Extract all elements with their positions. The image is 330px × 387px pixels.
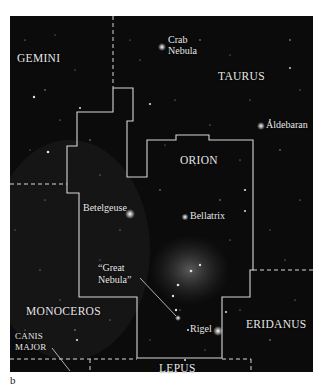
- label-crab-nebula-1: Crab: [168, 35, 187, 46]
- label-taurus: TAURUS: [218, 70, 265, 82]
- label-eridanus: ERIDANUS: [246, 318, 307, 330]
- label-canis-major-2: MAJOR: [15, 343, 47, 352]
- label-crab-nebula-2: Nebula: [168, 46, 197, 57]
- label-canis-major-1: CANIS: [15, 332, 43, 341]
- label-aldebaran: Aldebaran: [266, 120, 308, 131]
- label-great-nebula-2: Nebula”: [98, 275, 131, 286]
- label-betelgeuse: Betelgeuse: [83, 203, 127, 214]
- label-rigel: Rigel: [190, 324, 212, 335]
- aldebaran-star: [257, 122, 265, 130]
- bellatrix-star: [182, 214, 189, 221]
- label-bellatrix: Bellatrix: [190, 211, 225, 222]
- label-lepus: LEPUS: [159, 362, 196, 374]
- label-great-nebula-1: “Great: [98, 263, 125, 274]
- panel-label: b: [10, 374, 16, 386]
- crab-nebula-star: [158, 43, 166, 51]
- label-gemini: GEMINI: [17, 52, 60, 64]
- label-orion: ORION: [180, 154, 218, 166]
- label-monoceros: MONOCEROS: [26, 305, 101, 317]
